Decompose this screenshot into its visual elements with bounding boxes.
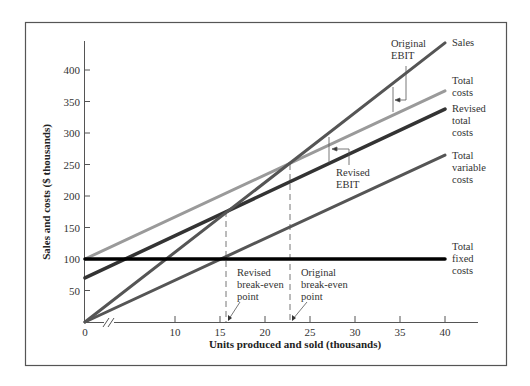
x-tick-label: 40 [440,326,452,338]
y-tick-label: 150 [64,222,81,234]
x-tick-label: 0 [82,326,88,338]
y-tick-label: 250 [64,159,81,171]
series-label: Sales [452,37,474,48]
y-tick-label: 350 [64,96,81,108]
y-tick-label: 400 [64,64,81,76]
x-tick-label: 30 [350,326,362,338]
x-tick-label: 20 [260,326,272,338]
axis-break-icon [103,318,114,327]
x-tick-label: 15 [215,326,227,338]
x-tick-label: 35 [395,326,407,338]
y-axis-title: Sales and costs ($ thousands) [40,124,53,260]
y-tick-label: 100 [64,253,81,265]
y-tick-label: 200 [64,190,81,202]
x-tick-label: 10 [170,326,182,338]
x-tick-label: 25 [305,326,317,338]
y-tick-label: 50 [69,285,81,297]
break-even-chart: 50100150200250300350400 010152025303540 … [0,0,530,386]
x-axis-title: Units produced and sold (thousands) [209,338,382,351]
series-label: Totalcosts [452,75,474,98]
series-label: Totalfixedcosts [452,241,474,276]
y-tick-label: 300 [64,127,81,139]
